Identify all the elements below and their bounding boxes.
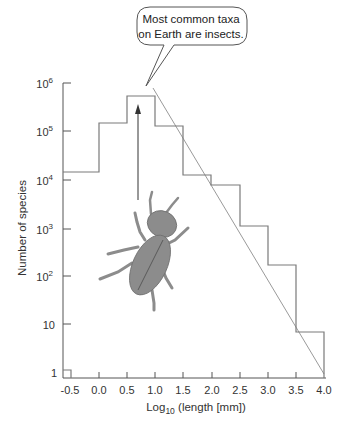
callout-text-line1: Most common taxa xyxy=(142,13,240,25)
y-tick-1: 1 xyxy=(51,367,57,379)
y-tick-1e6: 106 xyxy=(36,76,53,90)
trend-line xyxy=(153,88,324,374)
x-axis: -0.5 0.0 0.5 1.0 1.5 2.0 2.5 3.0 3.5 4.0… xyxy=(61,372,332,416)
species-size-chart: Most common taxa on Earth are insects. 1… xyxy=(0,0,347,427)
arrow-to-peak xyxy=(135,104,141,200)
x-tick: 3.5 xyxy=(288,384,303,396)
callout-text-line2: on Earth are insects. xyxy=(138,28,243,40)
x-tick: 2.5 xyxy=(232,384,247,396)
beetle-illustration xyxy=(100,192,188,310)
x-tick: 3.0 xyxy=(260,384,275,396)
histogram-steps xyxy=(63,96,324,378)
y-axis-title: Number of species xyxy=(16,180,28,276)
x-tick: 4.0 xyxy=(316,384,331,396)
y-tick-1e5: 105 xyxy=(36,124,53,138)
y-tick-10: 10 xyxy=(43,319,55,331)
x-tick: -0.5 xyxy=(61,384,80,396)
x-tick: 1.5 xyxy=(175,384,190,396)
y-tick-1e2: 102 xyxy=(36,269,53,283)
x-tick: 2.0 xyxy=(204,384,219,396)
x-axis-title: Log10 (length [mm]) xyxy=(146,401,246,416)
callout-bubble: Most common taxa on Earth are insects. xyxy=(137,7,247,86)
y-tick-1e3: 103 xyxy=(36,222,53,236)
y-tick-1e4: 104 xyxy=(36,173,53,187)
x-tick: 0.5 xyxy=(119,384,134,396)
x-tick: 0.0 xyxy=(91,384,106,396)
y-axis: 106 105 104 103 102 10 1 Number of speci… xyxy=(16,76,71,379)
x-tick: 1.0 xyxy=(147,384,162,396)
